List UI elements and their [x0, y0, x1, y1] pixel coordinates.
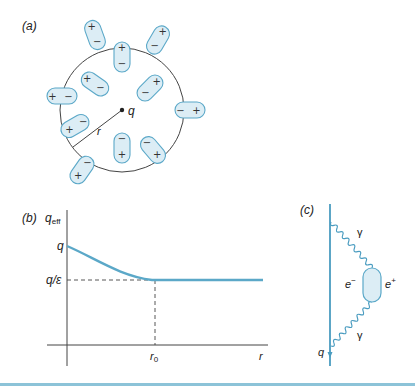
minus-sign: −: [141, 87, 149, 98]
arrow-up-icon: [328, 352, 333, 358]
photon-bottom-label: γ: [357, 329, 363, 341]
bottom-rule: [0, 383, 415, 386]
plus-sign: +: [83, 73, 91, 84]
tick-r0: r0: [150, 350, 159, 364]
plus-sign: +: [192, 105, 200, 116]
dipole: +−: [82, 17, 108, 52]
minus-sign: −: [118, 58, 126, 69]
minus-sign: −: [176, 105, 184, 116]
dipole: −+: [114, 133, 130, 163]
dipole: −+: [67, 152, 98, 187]
plus-sign: +: [74, 170, 82, 181]
positron-label: e+: [385, 276, 396, 290]
dipole: −+: [136, 132, 168, 166]
photon-line-bottom: [331, 302, 372, 347]
plus-sign: +: [159, 26, 167, 37]
dipole: +−: [134, 71, 167, 104]
minus-sign: −: [143, 137, 151, 148]
plus-sign: +: [65, 124, 73, 135]
minus-sign: −: [96, 82, 104, 93]
charge-label: q: [128, 104, 135, 118]
tick-q-eps: q/ε: [46, 273, 62, 287]
panel-b-label: (b): [22, 211, 37, 225]
radius-label: r: [97, 125, 102, 137]
q-eff-curve: [67, 246, 263, 280]
x-axis-label: r: [259, 350, 264, 362]
panel-c: (c) γ γ e− e+ q: [300, 203, 396, 366]
dipole: −+: [175, 102, 205, 118]
tick-q: q: [57, 239, 64, 253]
y-axis-label: qeff: [45, 211, 61, 226]
panel-c-label: (c): [300, 203, 314, 217]
dipole-group: +−+−+−+−+−+−−+−+−+−+−+: [47, 17, 205, 187]
photon-line-top: [331, 222, 373, 268]
plus-sign: +: [153, 76, 161, 87]
minus-sign: −: [83, 157, 91, 168]
electron-label: e−: [345, 276, 356, 290]
plus-sign: +: [153, 149, 161, 160]
panel-b: (b) qeff q q/ε r0 r: [22, 210, 268, 366]
minus-sign: −: [64, 91, 72, 102]
plus-sign: +: [48, 91, 56, 102]
panel-a-label: (a): [22, 19, 37, 33]
pair-loop: [363, 268, 381, 302]
charge-q-label: q: [318, 346, 325, 358]
minus-sign: −: [79, 116, 87, 127]
plus-sign: +: [88, 21, 96, 32]
dipole: +−: [114, 42, 130, 72]
point-charge: [120, 108, 124, 112]
plus-sign: +: [118, 149, 126, 160]
dipole: +−: [144, 22, 174, 57]
panel-a: (a) q r +−+−+−+−+−+−−+−+−+−+−+: [22, 17, 205, 187]
dipole: +−: [77, 68, 112, 99]
minus-sign: −: [93, 36, 101, 47]
figure: (a) q r +−+−+−+−+−+−−+−+−+−+−+ (b) qeff …: [0, 0, 415, 388]
plus-sign: +: [118, 42, 126, 53]
minus-sign: −: [151, 40, 159, 51]
dipole: +−: [47, 88, 77, 104]
photon-top-label: γ: [357, 226, 363, 238]
minus-sign: −: [118, 133, 126, 144]
